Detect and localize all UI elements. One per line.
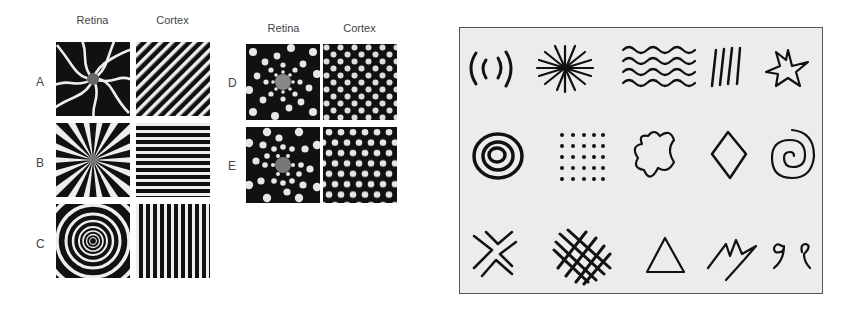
zigzag-bolt-icon [708,240,756,280]
cortex-square-lattice [323,44,397,120]
diamond-icon [712,132,746,178]
form-constants-panel [459,27,823,294]
triangle-icon [647,238,684,272]
concentric-circles-icon [474,134,522,178]
nested-arcs-icon [471,52,511,86]
blob-icon [635,132,674,177]
dot-grid-icon [560,133,605,181]
jagged-star-icon [766,50,808,86]
row-label-d: D [228,76,237,90]
row-label-a: A [36,75,44,89]
column-header-retina: Retina [55,14,130,26]
cortex-vertical-stripes [136,204,210,278]
spiral-icon [772,130,814,178]
cortex-diagonal-stripes [136,42,210,116]
crosshatch-lattice-icon [554,230,610,284]
retina-spiral-pattern [56,42,130,116]
column-header-cortex: Cortex [135,14,210,26]
column-header-retina-2: Retina [246,22,321,34]
radiating-star-icon [537,46,593,92]
retina-radial-pattern [56,123,130,197]
cortex-horizontal-stripes [136,123,210,197]
hooks-icon [774,244,810,268]
wavy-lines-icon [623,47,695,86]
cortex-hexagonal-lattice [323,127,397,203]
row-label-e: E [228,159,236,173]
row-label-c: C [36,237,45,251]
parallel-slashes-icon [712,48,740,86]
column-header-cortex-2: Cortex [322,22,397,34]
retina-concentric-pattern [56,204,130,278]
double-x-icon [474,232,516,276]
row-label-b: B [36,156,44,170]
retina-dot-lattice-pattern [246,127,320,203]
retina-checkerboard-pattern [246,44,320,120]
